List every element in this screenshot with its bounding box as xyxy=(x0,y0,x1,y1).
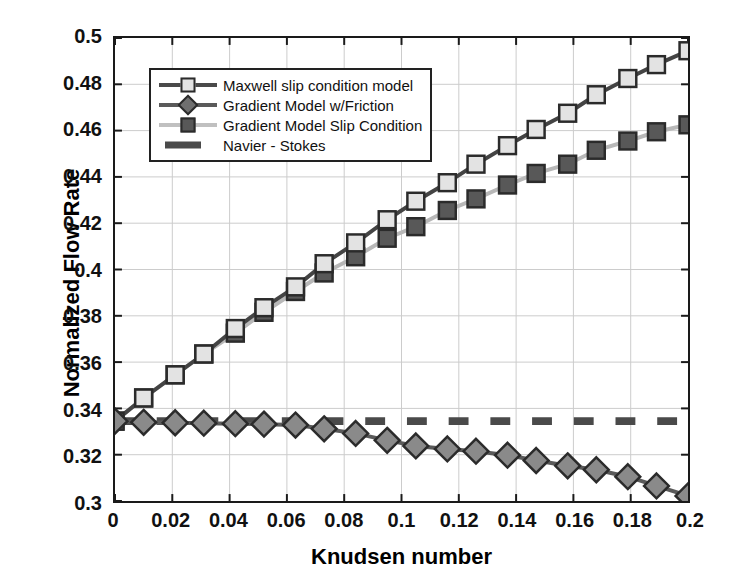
chart-legend: Maxwell slip condition model Gradient Mo… xyxy=(149,68,432,162)
x-tick-label: 0.12 xyxy=(440,509,479,532)
y-tick-label: 0.44 xyxy=(12,165,102,188)
x-tick-label: 0.1 xyxy=(388,509,416,532)
y-tick-label: 0.32 xyxy=(12,445,102,468)
legend-label: Gradient Model Slip Condition xyxy=(219,117,422,134)
y-tick-label: 0.46 xyxy=(12,118,102,141)
legend-item-gradient-friction[interactable]: Gradient Model w/Friction xyxy=(157,95,424,115)
legend-label: Gradient Model w/Friction xyxy=(219,97,394,114)
y-tick-label: 0.3 xyxy=(12,492,102,515)
y-tick-label: 0.5 xyxy=(12,25,102,48)
y-tick-label: 0.4 xyxy=(12,258,102,281)
y-tick-label: 0.48 xyxy=(12,71,102,94)
x-tick-label: 0.02 xyxy=(151,509,190,532)
legend-item-navier-stokes[interactable]: Navier - Stokes xyxy=(157,135,424,155)
legend-item-maxwell[interactable]: Maxwell slip condition model xyxy=(157,75,424,95)
y-tick-label: 0.36 xyxy=(12,351,102,374)
x-tick-label: 0.16 xyxy=(555,509,594,532)
y-tick-label: 0.38 xyxy=(12,305,102,328)
y-tick-label: 0.34 xyxy=(12,398,102,421)
x-tick-label: 0.06 xyxy=(267,509,306,532)
legend-marker-diamond xyxy=(157,95,219,115)
legend-item-gradient-slip[interactable]: Gradient Model Slip Condition xyxy=(157,115,424,135)
x-tick-label: 0.08 xyxy=(324,509,363,532)
x-axis-title: Knudsen number xyxy=(113,544,690,570)
legend-marker-square-light xyxy=(157,75,219,95)
x-tick-label: 0.14 xyxy=(497,509,536,532)
x-tick-label: 0 xyxy=(107,509,118,532)
y-tick-label: 0.42 xyxy=(12,211,102,234)
x-tick-label: 0.18 xyxy=(613,509,652,532)
legend-marker-square-dark xyxy=(157,115,219,135)
legend-marker-dash xyxy=(157,135,219,155)
legend-label: Maxwell slip condition model xyxy=(219,77,413,94)
x-tick-label: 0.04 xyxy=(209,509,248,532)
chart-figure: Normalized Flow Rate 0.30.320.340.360.38… xyxy=(0,0,743,581)
x-tick-label: 0.2 xyxy=(676,509,704,532)
legend-label: Navier - Stokes xyxy=(219,137,326,154)
